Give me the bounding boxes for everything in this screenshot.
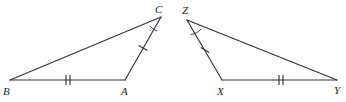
- tick-marks-side-AC: [139, 46, 148, 51]
- tick-mark: [139, 46, 148, 51]
- triangle-abc: B A C: [3, 3, 163, 97]
- vertex-label-C: C: [155, 3, 163, 15]
- triangle-xyz: Z X Y: [182, 4, 342, 97]
- side-CB: [10, 17, 161, 80]
- side-YZ: [187, 20, 337, 80]
- vertex-label-Y: Y: [334, 84, 342, 96]
- vertex-label-Z: Z: [182, 4, 189, 16]
- geometry-figure: B A C Z X Y: [0, 0, 346, 102]
- vertex-label-B: B: [3, 85, 10, 97]
- vertex-label-X: X: [216, 85, 225, 97]
- figure-canvas: B A C Z X Y: [0, 0, 346, 102]
- vertex-label-A: A: [120, 85, 128, 97]
